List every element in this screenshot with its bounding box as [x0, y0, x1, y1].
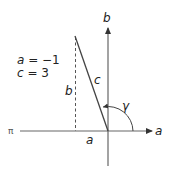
- vertical-axis-label: b: [103, 11, 111, 25]
- hypotenuse-c: [75, 36, 108, 131]
- given-a-equation: a = −1: [17, 53, 60, 67]
- given-a-value: = −1: [24, 53, 59, 67]
- hypotenuse-c-label: c: [94, 73, 101, 87]
- given-a-var: a: [17, 53, 24, 67]
- pi-label: π: [8, 126, 14, 136]
- side-a-label: a: [86, 133, 93, 147]
- triangle-diagram: b a π a b c γ a = −1 c = 3: [0, 0, 170, 173]
- horizontal-axis-label: a: [155, 124, 162, 138]
- given-c-value: = 3: [24, 66, 49, 80]
- angle-gamma-label: γ: [122, 99, 130, 113]
- side-b-label: b: [65, 84, 73, 98]
- given-c-equation: c = 3: [17, 66, 49, 80]
